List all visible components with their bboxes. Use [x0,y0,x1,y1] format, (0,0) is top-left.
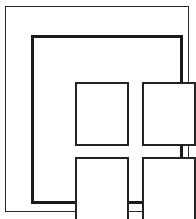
pane-top-left [75,82,129,146]
window-frame [31,35,183,204]
outer-border-rectangle [5,6,189,212]
pane-top-right [142,82,196,146]
pane-bottom-left [75,157,129,219]
window-pane-grid [75,82,196,219]
pane-bottom-right [142,157,196,219]
drawing-canvas [0,0,196,219]
